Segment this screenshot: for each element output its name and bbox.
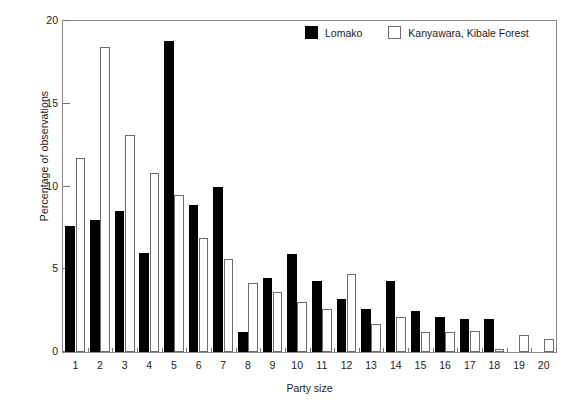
x-tick-label-16: 16: [439, 359, 451, 371]
legend-item-kanyawara: Kanyawara, Kibale Forest: [388, 26, 528, 39]
x-tick-label-12: 12: [341, 359, 353, 371]
bar-lomako-3: [115, 211, 125, 352]
bar-kanyawara-15: [421, 332, 431, 352]
x-tick-6: [211, 348, 212, 352]
x-tick-10: [310, 348, 311, 352]
x-tick-12: [359, 348, 360, 352]
legend-swatch-lomako: [305, 26, 318, 39]
bar-lomako-5: [164, 41, 174, 352]
x-tick-20: [556, 348, 557, 352]
chart-figure: Percentage of observations 05101520 1234…: [0, 0, 581, 406]
x-tick-label-2: 2: [97, 359, 103, 371]
x-tick-label-9: 9: [270, 359, 276, 371]
x-tick-label-10: 10: [291, 359, 303, 371]
legend-swatch-kanyawara: [388, 26, 401, 39]
bar-kanyawara-13: [371, 324, 381, 352]
bar-kanyawara-16: [445, 332, 455, 352]
x-tick-label-7: 7: [220, 359, 226, 371]
x-tick-18: [507, 348, 508, 352]
bar-kanyawara-19: [519, 335, 529, 352]
legend-item-lomako: Lomako: [305, 26, 362, 39]
x-tick-label-4: 4: [146, 359, 152, 371]
legend-label-kanyawara: Kanyawara, Kibale Forest: [408, 27, 528, 39]
x-tick-16: [457, 348, 458, 352]
x-tick-2: [112, 348, 113, 352]
bar-lomako-1: [65, 226, 75, 352]
bar-kanyawara-14: [396, 317, 406, 352]
x-tick-label-19: 19: [513, 359, 525, 371]
x-tick-4: [162, 348, 163, 352]
x-tick-label-15: 15: [415, 359, 427, 371]
y-tick-label-20: 20: [46, 14, 58, 26]
x-tick-label-5: 5: [171, 359, 177, 371]
bar-lomako-12: [337, 299, 347, 352]
plot-area: 05101520 1234567891011121314151617181920: [62, 20, 557, 353]
bar-lomako-2: [90, 220, 100, 352]
bar-kanyawara-18: [495, 349, 505, 352]
bar-lomako-13: [361, 309, 371, 352]
bar-lomako-9: [263, 278, 273, 352]
x-tick-label-17: 17: [464, 359, 476, 371]
bar-lomako-15: [411, 311, 421, 352]
x-tick-5: [186, 348, 187, 352]
bar-kanyawara-3: [125, 135, 135, 352]
x-tick-14: [408, 348, 409, 352]
x-tick-7: [236, 348, 237, 352]
bar-kanyawara-8: [248, 283, 258, 353]
bar-kanyawara-2: [100, 47, 110, 352]
x-tick-label-13: 13: [365, 359, 377, 371]
bar-lomako-18: [484, 319, 494, 352]
bar-kanyawara-9: [273, 292, 283, 352]
x-axis-title: Party size: [62, 382, 557, 394]
y-tick-label-0: 0: [52, 345, 58, 357]
y-tick-15: 15: [63, 103, 70, 104]
x-tick-9: [285, 348, 286, 352]
y-tick-20: 20: [63, 20, 70, 21]
y-tick-10: 10: [63, 186, 70, 187]
y-axis-title: Percentage of observations: [38, 16, 50, 296]
bar-lomako-10: [287, 254, 297, 352]
x-tick-label-11: 11: [316, 359, 327, 371]
bar-lomako-8: [238, 332, 248, 352]
x-tick-label-1: 1: [72, 359, 78, 371]
bar-lomako-17: [460, 319, 470, 352]
x-tick-17: [482, 348, 483, 352]
bar-kanyawara-7: [224, 259, 234, 352]
chart-legend: Lomako Kanyawara, Kibale Forest: [305, 26, 529, 39]
x-tick-label-8: 8: [245, 359, 251, 371]
bar-kanyawara-20: [544, 339, 554, 352]
x-tick-label-6: 6: [196, 359, 202, 371]
bar-lomako-14: [386, 281, 396, 352]
x-tick-19: [531, 348, 532, 352]
x-tick-13: [383, 348, 384, 352]
bar-kanyawara-1: [76, 158, 86, 352]
bar-lomako-6: [189, 205, 199, 352]
x-tick-3: [137, 348, 138, 352]
x-tick-label-14: 14: [390, 359, 402, 371]
x-tick-label-18: 18: [489, 359, 501, 371]
bar-kanyawara-12: [347, 274, 357, 352]
bar-kanyawara-10: [297, 302, 307, 352]
bar-kanyawara-4: [150, 173, 160, 352]
x-tick-1: [88, 348, 89, 352]
bar-lomako-11: [312, 281, 322, 352]
x-tick-label-3: 3: [122, 359, 128, 371]
y-tick-label-15: 15: [46, 97, 58, 109]
bar-lomako-4: [139, 253, 149, 352]
x-tick-label-20: 20: [538, 359, 550, 371]
bar-kanyawara-17: [470, 331, 480, 353]
x-tick-11: [334, 348, 335, 352]
bar-lomako-16: [435, 317, 445, 352]
x-tick-8: [260, 348, 261, 352]
x-tick-15: [433, 348, 434, 352]
bar-kanyawara-5: [174, 195, 184, 352]
y-tick-label-10: 10: [46, 180, 58, 192]
bar-lomako-7: [213, 187, 223, 353]
bar-kanyawara-11: [322, 309, 332, 352]
y-tick-label-5: 5: [52, 262, 58, 274]
bar-kanyawara-6: [199, 238, 209, 352]
legend-label-lomako: Lomako: [325, 27, 362, 39]
